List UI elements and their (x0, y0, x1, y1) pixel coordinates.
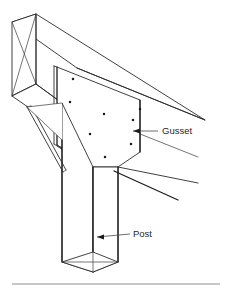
gusset-bolt-hole (132, 119, 135, 122)
gusset-bolt-hole (103, 113, 106, 116)
gusset-bolt-hole (130, 143, 133, 146)
gusset-bolt-hole (139, 108, 142, 111)
brace-right-edge-b (114, 171, 178, 200)
gusset-bolt-hole (69, 101, 72, 104)
gusset-bolt-hole (104, 156, 107, 159)
brace-left-gusset-fill (27, 103, 62, 140)
technical-drawing-figure: Gusset Post (0, 0, 232, 294)
gusset-bolt-hole (89, 133, 92, 136)
callout-gusset: Gusset (133, 125, 192, 136)
post-label: Post (133, 228, 152, 239)
brace-right-edge-a (118, 167, 198, 183)
isometric-drawing-canvas: Gusset Post (0, 0, 232, 294)
gusset-label: Gusset (162, 125, 192, 136)
gusset-bolt-hole (72, 78, 75, 81)
